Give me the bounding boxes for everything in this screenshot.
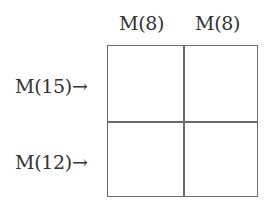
horizontal-divider [108,121,257,123]
row-label-1: M(15)→ [15,75,88,97]
row-label-2: M(12)→ [15,151,88,173]
cell-r1-c1 [108,46,183,121]
block-grid [107,45,258,197]
cell-r2-c1 [108,122,183,195]
cell-r1-c2 [184,46,257,121]
column-label-1: M(8) [119,12,164,34]
column-label-2: M(8) [195,12,240,34]
cell-r2-c2 [184,122,257,195]
